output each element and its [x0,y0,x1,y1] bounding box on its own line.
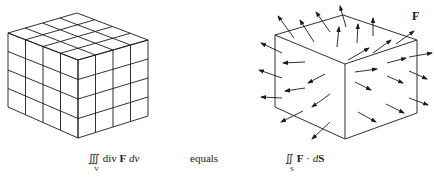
vector-field-label-F: F [412,9,419,24]
double-integral-sign: ∬ [285,152,294,164]
surface-subscript: S [290,165,294,173]
dot-operator: · [303,152,312,164]
differential-dv: dv [126,152,139,164]
surface-element-S: S [318,152,324,164]
figure-caption [176,183,256,189]
integrand-div: div [103,152,120,164]
triple-integral-sign: ∭ [88,152,100,164]
surface-integral-formula: ∬ F · dS [285,152,324,165]
volume-subscript: V [94,165,99,173]
equals-word: equals [190,152,218,164]
volume-integral-formula: ∭ div F dv [88,152,139,165]
